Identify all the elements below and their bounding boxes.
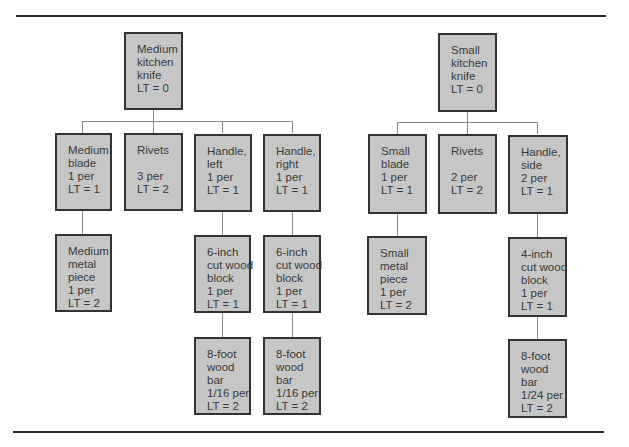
connector: [537, 122, 538, 134]
node-quantity: 1/16 per: [207, 387, 249, 400]
node-label: Small: [380, 247, 425, 260]
node-label: 8-foot: [276, 348, 319, 361]
node-6-inch-cut-wood-block-left: 6-inch cut wood block 1 per LT = 1: [194, 235, 251, 313]
connector: [222, 210, 223, 236]
node-quantity: 2 per: [521, 172, 566, 185]
node-label: bar: [521, 376, 565, 389]
connector: [292, 312, 293, 337]
node-quantity: 1 per: [207, 171, 250, 184]
node-lead-time: LT = 1: [276, 298, 319, 311]
node-label: wood: [276, 361, 319, 374]
node-label: cut wood: [276, 259, 319, 272]
node-label: knife: [137, 69, 181, 82]
node-quantity: 1 per: [68, 284, 110, 297]
node-label: 4-inch: [521, 248, 565, 261]
node-label: piece: [380, 273, 425, 286]
node-label: kitchen: [137, 56, 181, 69]
node-label: Handle,: [276, 145, 319, 158]
node-label: Medium: [68, 245, 110, 258]
node-lead-time: LT = 1: [207, 184, 250, 197]
spacer: [137, 157, 181, 170]
node-label: cut wood: [207, 259, 249, 272]
node-label: 8-foot: [521, 350, 565, 363]
node-8-foot-wood-bar-left: 8-foot wood bar 1/16 per LT = 2: [194, 337, 251, 415]
connector: [222, 312, 223, 337]
node-label: metal: [380, 260, 425, 273]
node-quantity: 1 per: [68, 170, 110, 183]
node-lead-time: LT = 1: [381, 184, 425, 197]
connector: [222, 121, 223, 133]
connector: [397, 213, 398, 236]
node-quantity: 1 per: [521, 287, 565, 300]
node-label: kitchen: [451, 57, 495, 70]
node-small-blade: Small blade 1 per LT = 1: [368, 134, 427, 214]
node-label: Rivets: [451, 145, 495, 158]
node-label: wood: [521, 363, 565, 376]
connector: [82, 121, 293, 122]
node-small-kitchen-knife: Small kitchen knife LT = 0: [438, 33, 497, 112]
node-quantity: 1/24 per: [521, 389, 565, 402]
node-medium-kitchen-knife: Medium kitchen knife LT = 0: [124, 32, 183, 110]
connector: [467, 111, 468, 122]
node-8-foot-wood-bar-right: 8-foot wood bar 1/16 per LT = 2: [263, 337, 321, 415]
node-lead-time: LT = 1: [207, 298, 249, 311]
node-handle-left: Handle, left 1 per LT = 1: [194, 134, 252, 212]
node-lead-time: LT = 1: [521, 300, 565, 313]
node-label: wood: [207, 361, 249, 374]
node-label: Small: [451, 44, 495, 57]
node-label: 6-inch: [276, 246, 319, 259]
top-rule: [16, 15, 606, 17]
node-lead-time: LT = 2: [451, 184, 495, 197]
node-6-inch-cut-wood-block-right: 6-inch cut wood block 1 per LT = 1: [263, 235, 321, 313]
bottom-rule: [13, 431, 604, 433]
node-lead-time: LT = 2: [276, 400, 319, 413]
node-label: side: [521, 159, 566, 172]
connector: [397, 122, 398, 134]
node-label: block: [276, 272, 319, 285]
node-label: Handle,: [207, 145, 250, 158]
node-lead-time: LT = 0: [137, 82, 181, 95]
node-label: 8-foot: [207, 348, 249, 361]
spacer: [451, 158, 495, 171]
node-lead-time: LT = 1: [521, 185, 566, 198]
node-quantity: 1/16 per: [276, 387, 319, 400]
node-label: metal: [68, 258, 110, 271]
node-lead-time: LT = 0: [451, 83, 495, 96]
connector: [292, 121, 293, 133]
node-rivets: Rivets 3 per LT = 2: [124, 133, 183, 211]
connector: [467, 122, 468, 134]
connector: [292, 210, 293, 236]
node-label: Medium: [68, 144, 110, 157]
node-lead-time: LT = 2: [521, 402, 565, 415]
node-lead-time: LT = 1: [68, 183, 110, 196]
node-lead-time: LT = 2: [207, 400, 249, 413]
node-label: bar: [276, 374, 319, 387]
node-quantity: 1 per: [381, 171, 425, 184]
node-quantity: 1 per: [276, 171, 319, 184]
node-lead-time: LT = 1: [276, 184, 319, 197]
node-label: 6-inch: [207, 246, 249, 259]
node-4-inch-cut-wood-block: 4-inch cut wood block 1 per LT = 1: [508, 237, 567, 317]
connector: [537, 213, 538, 237]
node-label: block: [521, 274, 565, 287]
node-label: left: [207, 158, 250, 171]
node-label: Rivets: [137, 144, 181, 157]
node-lead-time: LT = 2: [380, 299, 425, 312]
node-quantity: 2 per: [451, 171, 495, 184]
connector: [537, 316, 538, 339]
connector: [82, 121, 83, 133]
node-quantity: 1 per: [276, 285, 319, 298]
node-quantity: 1 per: [207, 285, 249, 298]
node-label: cut wood: [521, 261, 565, 274]
node-quantity: 3 per: [137, 170, 181, 183]
node-rivets-small: Rivets 2 per LT = 2: [438, 134, 497, 214]
node-small-metal-piece: Small metal piece 1 per LT = 2: [367, 236, 427, 315]
node-label: blade: [381, 158, 425, 171]
node-lead-time: LT = 2: [137, 183, 181, 196]
node-medium-blade: Medium blade 1 per LT = 1: [55, 133, 112, 211]
node-medium-metal-piece: Medium metal piece 1 per LT = 2: [55, 234, 112, 312]
node-lead-time: LT = 2: [68, 297, 110, 310]
node-label: knife: [451, 70, 495, 83]
connector: [153, 109, 154, 121]
node-label: Handle,: [521, 146, 566, 159]
